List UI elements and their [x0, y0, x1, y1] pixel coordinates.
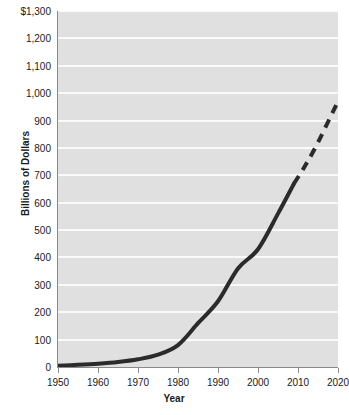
x-axis-line: [57, 367, 338, 368]
series-line-actual: [58, 184, 294, 366]
x-axis-tick-label: 1950: [47, 377, 69, 388]
x-axis-tick: [178, 368, 179, 373]
data-series-layer: [58, 11, 338, 367]
x-axis-tick: [258, 368, 259, 373]
y-axis-tick-label: 1,000: [26, 88, 51, 99]
y-axis-line: [57, 11, 58, 368]
y-axis-tick-label: 200: [34, 307, 51, 318]
x-axis-tick: [138, 368, 139, 373]
y-axis-tick-label: 100: [34, 334, 51, 345]
x-axis-tick-label: 2000: [247, 377, 269, 388]
y-axis-tick-label: 800: [34, 142, 51, 153]
y-axis-tick-label: 900: [34, 115, 51, 126]
y-axis-tick-label: 700: [34, 170, 51, 181]
plot-area: [58, 11, 338, 367]
y-axis-tick-label: 500: [34, 225, 51, 236]
y-axis-tick-label: 1,100: [26, 60, 51, 71]
x-axis-title: Year: [0, 393, 348, 404]
x-axis-tick-label: 1970: [127, 377, 149, 388]
y-axis-tick-label: 300: [34, 279, 51, 290]
x-axis-tick-label: 2020: [327, 377, 349, 388]
x-axis-tick-label: 2010: [287, 377, 309, 388]
y-axis-tick-labels: 01002003004005006007008009001,0001,1001,…: [0, 0, 54, 415]
y-axis-tick-label: 1,200: [26, 33, 51, 44]
y-axis-tick-label: 600: [34, 197, 51, 208]
y-axis-tick-label: $1,300: [20, 6, 51, 17]
y-axis-tick-label: 0: [45, 362, 51, 373]
x-axis-tick: [218, 368, 219, 373]
x-axis-tick-label: 1960: [87, 377, 109, 388]
x-axis-tick: [98, 368, 99, 373]
x-axis-tick: [298, 368, 299, 373]
y-axis-tick-label: 400: [34, 252, 51, 263]
x-axis-tick-label: 1990: [207, 377, 229, 388]
x-axis-tick: [338, 368, 339, 373]
x-axis-tick-label: 1980: [167, 377, 189, 388]
series-line-projected: [294, 101, 338, 183]
x-axis-tick: [58, 368, 59, 373]
